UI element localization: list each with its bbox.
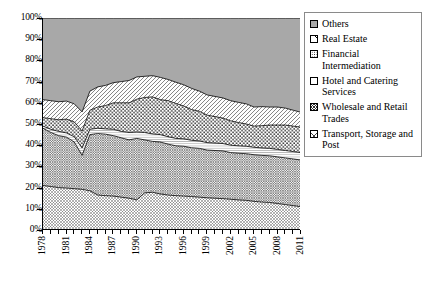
x-tick-mark [89, 230, 90, 234]
x-tick-mark [167, 230, 168, 234]
x-tick-mark [42, 230, 43, 234]
x-tick-mark [277, 230, 278, 234]
legend-item-hotel-and-catering-services: Hotel and Catering Services [310, 75, 417, 98]
dense-crosshatch-swatch-icon [310, 103, 318, 111]
legend-item-others: Others [310, 18, 417, 30]
diagonal-hatch-swatch-icon [310, 35, 318, 43]
x-tick-mark [175, 230, 176, 234]
x-tick-label: 1984 [84, 236, 94, 255]
x-tick-label: 1987 [107, 236, 117, 255]
legend-label: Wholesale and Retail Trades [322, 101, 417, 124]
x-tick-mark [230, 230, 231, 234]
x-tick-label: 1996 [178, 236, 188, 255]
x-tick-label: 1981 [61, 236, 71, 255]
fine-crosshatch-swatch-icon [310, 130, 318, 138]
x-tick-mark [214, 230, 215, 234]
solid-gray-swatch-icon [310, 20, 318, 28]
legend-item-real-estate: Real Estate [310, 33, 417, 45]
legend-item-wholesale-and-retail-trades: Wholesale and Retail Trades [310, 101, 417, 124]
x-tick-label: 2002 [225, 236, 235, 255]
x-tick-mark [253, 230, 254, 234]
horizontal-lines-swatch-icon [310, 77, 318, 85]
x-tick-mark [284, 230, 285, 234]
x-tick-mark [81, 230, 82, 234]
x-tick-mark [191, 230, 192, 234]
legend-item-financial-intermediation: Financial Intermediation [310, 48, 417, 71]
x-tick-mark [300, 230, 301, 234]
x-tick-mark [73, 230, 74, 234]
legend-item-transport-storage-and-post: Transport, Storage and Post [310, 128, 417, 151]
y-tick-label: 0% [4, 225, 42, 235]
x-tick-mark [128, 230, 129, 234]
x-tick-label: 1990 [131, 236, 141, 255]
stacked-area-chart [43, 18, 300, 230]
x-tick-mark [261, 230, 262, 234]
x-tick-label: 1978 [37, 236, 47, 255]
chart-figure: 0%10%20%30%40%50%60%70%80%90%100% [0, 0, 424, 287]
x-tick-label: 2008 [272, 236, 282, 255]
x-tick-mark [269, 230, 270, 234]
y-tick-label: 20% [4, 183, 42, 193]
x-tick-mark [58, 230, 59, 234]
legend-label: Real Estate [322, 33, 367, 45]
x-tick-mark [50, 230, 51, 234]
x-tick-mark [222, 230, 223, 234]
x-tick-mark [97, 230, 98, 234]
x-axis: 1978198119841987199019931996199920022005… [42, 230, 304, 287]
x-tick-mark [66, 230, 67, 234]
chart-legend: Others Real Estate Financial Intermediat… [304, 12, 422, 157]
x-tick-mark [183, 230, 184, 234]
legend-label: Financial Intermediation [322, 48, 417, 71]
x-tick-mark [198, 230, 199, 234]
x-tick-mark [136, 230, 137, 234]
legend-label: Others [322, 18, 349, 30]
plot-area [42, 18, 300, 230]
y-tick-label: 80% [4, 55, 42, 65]
x-tick-label: 2011 [295, 236, 305, 255]
x-tick-label: 2005 [248, 236, 258, 255]
y-tick-label: 50% [4, 119, 42, 129]
x-tick-mark [238, 230, 239, 234]
x-tick-label: 1993 [154, 236, 164, 255]
x-tick-mark [245, 230, 246, 234]
x-tick-mark [120, 230, 121, 234]
x-tick-mark [105, 230, 106, 234]
x-tick-mark [112, 230, 113, 234]
x-tick-mark [159, 230, 160, 234]
dots-swatch-icon [310, 50, 318, 58]
y-tick-label: 10% [4, 204, 42, 214]
y-tick-label: 90% [4, 34, 42, 44]
y-tick-label: 60% [4, 98, 42, 108]
x-tick-label: 1999 [201, 236, 211, 255]
y-tick-label: 70% [4, 77, 42, 87]
y-tick-label: 40% [4, 140, 42, 150]
y-tick-label: 30% [4, 161, 42, 171]
y-tick-label: 100% [4, 13, 42, 23]
x-tick-mark [292, 230, 293, 234]
x-tick-mark [144, 230, 145, 234]
legend-label: Hotel and Catering Services [322, 75, 417, 98]
x-tick-mark [206, 230, 207, 234]
y-axis: 0%10%20%30%40%50%60%70%80%90%100% [0, 0, 42, 232]
legend-label: Transport, Storage and Post [322, 128, 417, 151]
x-tick-mark [152, 230, 153, 234]
